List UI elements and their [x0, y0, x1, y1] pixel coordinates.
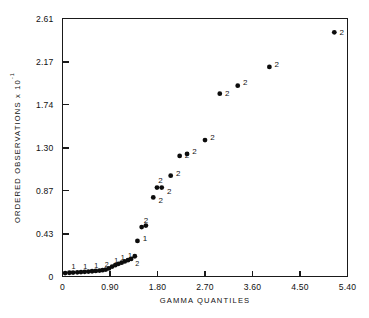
gamma-qq-plot-figure: 00.430.871.301.742.172.6100.901.802.703.… — [0, 0, 369, 318]
x-axis-title: GAMMA QUANTILES — [160, 296, 251, 305]
data-points-layer — [63, 30, 337, 276]
data-point — [235, 83, 240, 88]
y-tick-label: 1.30 — [36, 143, 54, 153]
x-tick-label: 3.60 — [244, 282, 262, 292]
data-point-multiplicity-label: 2 — [167, 187, 172, 196]
plot-axes — [63, 19, 348, 277]
x-tick-label: 4.50 — [291, 282, 309, 292]
data-point-multiplicity-label: 1 — [72, 262, 76, 271]
data-point — [151, 195, 156, 200]
y-tick-label: 0 — [49, 272, 54, 282]
data-point-multiplicity-label: 1 — [94, 261, 98, 270]
x-tick-label: 0.90 — [101, 282, 119, 292]
data-point-multiplicity-label: 1 — [121, 253, 125, 262]
plot-frame — [63, 19, 348, 277]
data-point-multiplicity-label: 2 — [144, 216, 149, 225]
axis-ticks — [63, 19, 348, 277]
data-point — [332, 30, 337, 35]
data-point-multiplicity-label: 2 — [158, 196, 163, 205]
y-tick-label: 0.43 — [36, 229, 54, 239]
data-point-multiplicity-label: 2 — [243, 78, 248, 87]
data-point-multiplicity-label: 2 — [185, 151, 190, 160]
x-tick-label: 5.40 — [339, 282, 357, 292]
data-point-multiplicity-label: 2 — [192, 147, 197, 156]
x-tick-label: 0 — [60, 282, 65, 292]
x-tick-label: 2.70 — [196, 282, 214, 292]
data-point — [139, 225, 144, 230]
scatter-plot-svg: 00.430.871.301.742.172.6100.901.802.703.… — [0, 0, 369, 318]
data-point-multiplicity-label: 1 — [128, 251, 132, 260]
data-point — [159, 185, 164, 190]
y-axis-title: ORDERED OBSERVATIONS x 10-1 — [9, 72, 22, 223]
y-tick-label: 2.61 — [36, 14, 54, 24]
data-point-multiplicity-label: 2 — [176, 169, 181, 178]
data-point — [267, 65, 272, 70]
y-tick-label: 0.87 — [36, 186, 54, 196]
data-point-multiplicity-label: 2 — [340, 28, 345, 37]
data-point-labels-layer: 111211121222222222222 — [72, 28, 345, 271]
x-tick-label: 1.80 — [149, 282, 167, 292]
data-point — [217, 91, 222, 96]
data-point-multiplicity-label: 2 — [135, 259, 139, 268]
data-point — [177, 154, 182, 159]
data-point — [132, 254, 137, 259]
data-point-multiplicity-label: 2 — [158, 176, 163, 185]
data-point-multiplicity-label: 1 — [114, 256, 118, 265]
data-point — [155, 185, 160, 190]
data-point-multiplicity-label: 2 — [210, 133, 215, 142]
data-point — [135, 239, 140, 244]
data-point-multiplicity-label: 2 — [225, 89, 230, 98]
y-tick-label: 1.74 — [36, 100, 54, 110]
data-point — [168, 173, 173, 178]
data-point-multiplicity-label: 1 — [143, 234, 148, 243]
data-point-multiplicity-label: 2 — [275, 60, 280, 69]
data-point-multiplicity-label: 2 — [105, 260, 109, 269]
data-point-multiplicity-label: 1 — [83, 262, 87, 271]
y-tick-label: 2.17 — [36, 57, 54, 67]
data-point — [203, 138, 208, 143]
data-point — [63, 271, 68, 276]
